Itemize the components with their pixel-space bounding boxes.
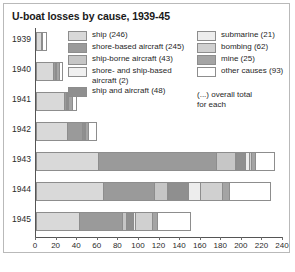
x-tick xyxy=(159,237,160,240)
y-axis-label: 1945 xyxy=(12,214,31,224)
y-axis-label: 1939 xyxy=(12,34,31,44)
bar-segment xyxy=(217,153,236,170)
x-tick xyxy=(241,237,242,240)
x-tick-label: 160 xyxy=(193,241,206,250)
bar-segment xyxy=(37,93,65,110)
x-tick xyxy=(282,237,283,240)
legend-swatch-icon xyxy=(68,31,87,41)
bar-segment xyxy=(230,183,269,200)
legend-item[interactable]: other causes (93) xyxy=(197,66,289,77)
bar-segment xyxy=(189,183,200,200)
x-tick-label: 60 xyxy=(92,241,101,250)
x-tick-label: 180 xyxy=(214,241,227,250)
x-tick xyxy=(56,237,57,240)
x-tick-label: 40 xyxy=(72,241,81,250)
y-axis-label: 1941 xyxy=(12,94,31,104)
bar-segment xyxy=(169,183,190,200)
stacked-bar xyxy=(36,122,97,141)
legend-item-label: ship and aircraft (48) xyxy=(92,86,165,96)
x-tick-label: 100 xyxy=(131,241,144,250)
x-tick xyxy=(117,237,118,240)
legend-swatch-icon xyxy=(197,43,216,53)
bar-segment xyxy=(223,183,230,200)
y-axis-label: 1942 xyxy=(12,124,31,134)
stacked-bar xyxy=(36,182,271,201)
x-tick xyxy=(138,237,139,240)
y-axis-label: 1944 xyxy=(12,184,31,194)
x-tick-label: 20 xyxy=(51,241,60,250)
x-tick-label: 0 xyxy=(33,241,37,250)
legend-item-label: mine (25) xyxy=(221,54,255,64)
legend-item-label: bombing (62) xyxy=(221,42,268,52)
bar-segment xyxy=(60,63,62,80)
legend-item-label: submarine (21) xyxy=(221,30,275,40)
bar-segment xyxy=(127,213,134,230)
legend-item-label: shore- and ship-based aircraft (2) xyxy=(92,66,172,85)
x-tick xyxy=(35,237,36,240)
legend-swatch-icon xyxy=(68,67,87,77)
legend-item-label: shore-based aircraft (245) xyxy=(92,42,184,52)
legend-item-label: ship-borne aircraft (43) xyxy=(92,54,173,64)
legend-item-label: other causes (93) xyxy=(221,66,283,76)
x-tick-label: 120 xyxy=(152,241,165,250)
stacked-bar xyxy=(36,32,47,51)
bar-segment xyxy=(237,153,246,170)
legend-item[interactable]: shore- and ship-based aircraft (2) xyxy=(68,66,188,85)
bar-segment xyxy=(37,153,99,170)
legend-swatch-icon xyxy=(197,55,216,65)
x-tick-label: 140 xyxy=(172,241,185,250)
bar-segment xyxy=(99,153,217,170)
page-title: U-boat losses by cause, 1939-45 xyxy=(12,10,170,22)
x-tick-label: 200 xyxy=(234,241,247,250)
legend-item[interactable]: bombing (62) xyxy=(197,42,289,53)
legend-swatch-icon xyxy=(68,87,87,97)
x-tick xyxy=(261,237,262,240)
x-tick xyxy=(97,237,98,240)
stacked-bar xyxy=(36,62,63,81)
x-tick xyxy=(179,237,180,240)
bar-segment xyxy=(201,183,224,200)
x-tick-label: 220 xyxy=(255,241,268,250)
x-tick-label: 240 xyxy=(275,241,288,250)
legend-item[interactable]: ship-borne aircraft (43) xyxy=(68,54,188,65)
bar-segment xyxy=(89,123,95,140)
legend-swatch-icon xyxy=(68,55,87,65)
legend-item[interactable]: mine (25) xyxy=(197,54,289,65)
legend-column-right: submarine (21)bombing (62)mine (25)other… xyxy=(197,30,289,78)
y-axis-label: 1943 xyxy=(12,154,31,164)
legend-item[interactable]: shore-based aircraft (245) xyxy=(68,42,188,53)
legend-item[interactable]: submarine (21) xyxy=(197,30,289,41)
legend-swatch-icon xyxy=(68,43,87,53)
legend-swatch-icon xyxy=(197,67,216,77)
x-tick xyxy=(200,237,201,240)
bar-segment xyxy=(37,123,68,140)
bar-segment xyxy=(136,213,153,230)
legend-note: (...) overall total for each xyxy=(197,90,252,109)
bar-segment xyxy=(68,123,83,140)
legend-item[interactable]: ship (246) xyxy=(68,30,188,41)
bar-segment xyxy=(37,213,80,230)
bar-segment xyxy=(37,63,54,80)
bar-segment xyxy=(37,183,104,200)
x-tick xyxy=(76,237,77,240)
legend-item[interactable]: ship and aircraft (48) xyxy=(68,86,188,97)
bar-segment xyxy=(104,183,155,200)
stacked-bar xyxy=(36,152,275,171)
legend-item-label: ship (246) xyxy=(92,30,128,40)
y-axis-label: 1940 xyxy=(12,64,31,74)
x-tick-label: 80 xyxy=(113,241,122,250)
bar-segment xyxy=(155,183,167,200)
legend-swatch-icon xyxy=(197,31,216,41)
chart-figure: U-boat losses by cause, 1939-45 19391940… xyxy=(3,3,290,253)
bar-segment xyxy=(158,213,190,230)
stacked-bar xyxy=(36,212,191,231)
legend-column-left: ship (246)shore-based aircraft (245)ship… xyxy=(68,30,188,98)
bar-segment xyxy=(43,33,46,50)
chart-legend: ship (246)shore-based aircraft (245)ship… xyxy=(68,30,286,110)
bar-segment xyxy=(80,213,123,230)
x-tick xyxy=(220,237,221,240)
bar-segment xyxy=(256,153,273,170)
